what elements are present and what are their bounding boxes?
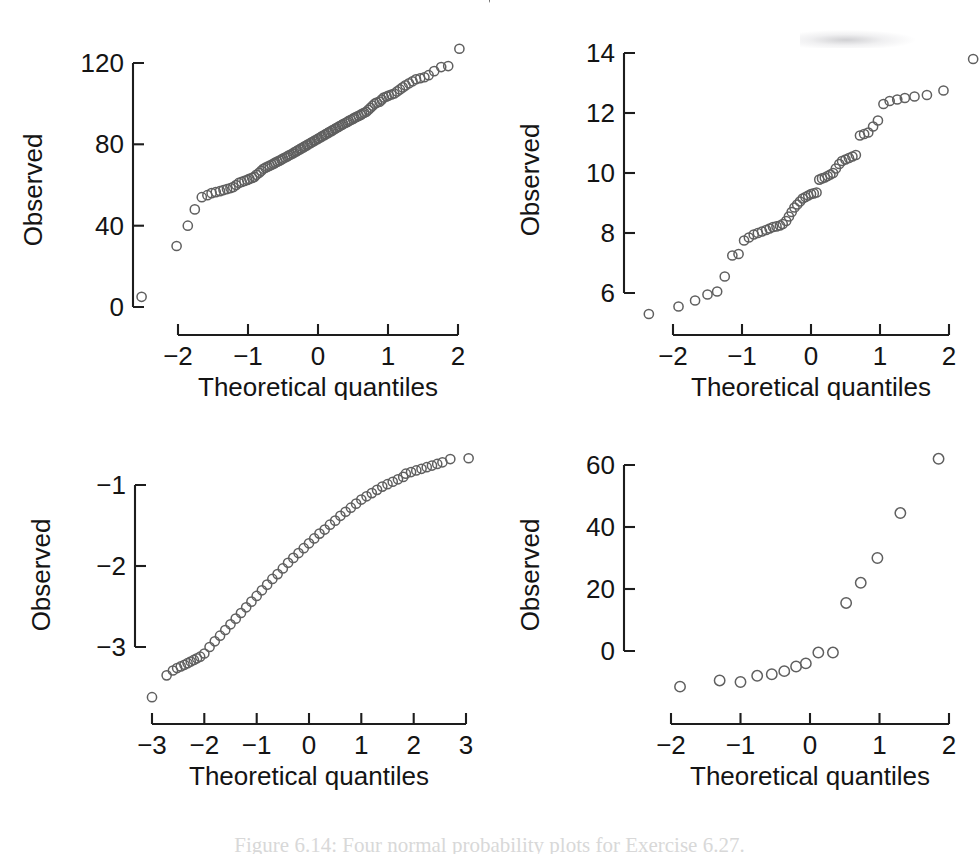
x-axis-title: Theoretical quantiles [691,372,931,400]
data-point [922,90,931,99]
y-axis-bottom-right: 60 40 20 0 [586,450,635,666]
y-axis-top-right: 14 12 10 8 6 [586,38,635,308]
x-tick-label: −1 [233,341,263,371]
panel-top-right: 14 12 10 8 6 −2 −1 0 1 2 Theoretical qua… [489,0,979,400]
data-point [172,241,181,250]
x-tick-label: −2 [163,341,193,371]
data-point [644,309,653,318]
data-point [813,647,823,657]
y-tick-label: 0 [110,292,124,322]
data-point [767,669,777,679]
data-point [828,647,838,657]
y-tick-label: 8 [601,218,615,248]
data-point [190,205,199,214]
data-point [252,591,261,600]
x-axis-title: Theoretical quantiles [189,761,429,791]
panel-bottom-left: −1 −2 −3 −3 −2 −1 0 1 2 3 Theoretical qu… [0,425,490,825]
y-axis-title: Observed [515,124,545,237]
data-point [226,620,235,629]
panel-bottom-right: 60 40 20 0 −2 −1 0 1 2 Theoretical quant… [489,425,979,825]
data-point [895,508,905,518]
qq-plot-top-left: 120 80 40 0 −2 −1 0 1 2 Theoretical quan… [0,0,490,400]
y-tick-label: 60 [586,450,615,480]
data-point [714,675,724,685]
x-tick-label: 2 [942,341,956,371]
qq-plot-top-right: 14 12 10 8 6 −2 −1 0 1 2 Theoretical qua… [489,0,979,400]
data-point [713,287,722,296]
data-point [147,693,156,702]
data-point [869,122,878,131]
data-point [735,677,745,687]
x-tick-label: −3 [137,730,167,760]
data-points-bottom-right [675,454,944,692]
x-tick-label: −1 [727,341,757,371]
x-tick-label: 1 [872,730,886,760]
x-tick-label: 2 [451,341,465,371]
data-point [933,454,943,464]
x-tick-label: −2 [658,341,688,371]
data-point [257,586,266,595]
data-point [690,296,699,305]
y-tick-label: 14 [586,38,615,68]
data-point [137,292,146,301]
qq-plot-bottom-left: −1 −2 −3 −3 −2 −1 0 1 2 3 Theoretical qu… [0,425,490,825]
x-tick-label: 2 [406,730,420,760]
data-point [752,671,762,681]
data-point [455,44,464,53]
data-point [873,116,882,125]
data-point [939,86,948,95]
data-point [205,642,214,651]
x-tick-label: 1 [873,341,887,371]
y-tick-label: 12 [586,98,615,128]
y-axis-title: Observed [515,519,545,632]
x-tick-label: 0 [804,341,818,371]
y-tick-label: 20 [586,574,615,604]
y-tick-label: −1 [96,470,126,500]
x-axis-bottom-left: −3 −2 −1 0 1 2 3 [137,713,473,760]
data-points-top-left [137,0,490,301]
data-point [720,272,729,281]
x-tick-label: 3 [459,730,473,760]
x-axis-top-right: −2 −1 0 1 2 [658,324,956,371]
data-point [210,637,219,646]
x-axis-title: Theoretical quantiles [198,372,438,400]
y-axis-title: Observed [26,519,56,632]
data-point [969,54,978,63]
data-point [856,578,866,588]
data-point [791,661,801,671]
data-point [183,221,192,230]
data-point [236,608,245,617]
data-point [278,564,287,573]
x-tick-label: 2 [942,730,956,760]
y-tick-label: 40 [95,211,124,241]
x-axis-title: Theoretical quantiles [690,761,930,791]
data-point [734,249,743,258]
y-tick-label: 40 [586,512,615,542]
y-tick-label: −2 [96,551,126,581]
y-tick-label: 0 [601,636,615,666]
x-axis-bottom-right: −2 −1 0 1 2 [656,713,956,760]
x-tick-label: 0 [803,730,817,760]
data-point [464,454,473,463]
data-point [215,631,224,640]
figure-caption: Figure 6.14: Four normal probability plo… [0,834,979,854]
x-tick-label: −1 [242,730,272,760]
data-point [841,598,851,608]
x-tick-label: 1 [354,730,368,760]
y-axis-bottom-left: −1 −2 −3 [96,470,146,662]
y-tick-label: 6 [601,278,615,308]
data-point [221,625,230,634]
data-point [872,553,882,563]
y-axis-title: Observed [18,134,48,247]
data-point [674,302,683,311]
y-tick-label: −3 [96,632,126,662]
x-tick-label: −2 [656,730,686,760]
data-point [197,193,206,202]
x-tick-label: 0 [302,730,316,760]
data-points-bottom-left [147,454,473,702]
y-tick-label: 10 [586,158,615,188]
data-point [910,92,919,101]
data-point [162,671,171,680]
data-point [231,614,240,623]
